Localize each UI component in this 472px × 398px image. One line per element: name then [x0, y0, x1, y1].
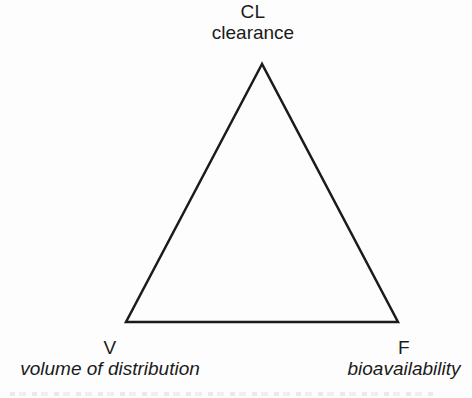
cropped-caption-remnant: [10, 392, 436, 396]
vertex-symbol-v: V: [20, 337, 200, 358]
triangle-outline: [126, 64, 398, 322]
vertex-symbol-cl: CL: [212, 1, 294, 22]
vertex-name-volume-of-distribution: volume of distribution: [20, 358, 200, 380]
vertex-name-clearance: clearance: [212, 22, 294, 44]
vertex-symbol-f: F: [347, 337, 460, 358]
vertex-name-bioavailability: bioavailability: [347, 358, 460, 380]
vertex-label-bioavailability: F bioavailability: [347, 337, 460, 380]
figure-page: CL clearance V volume of distribution F …: [0, 0, 472, 398]
vertex-label-clearance: CL clearance: [212, 1, 294, 44]
vertex-label-volume: V volume of distribution: [20, 337, 200, 380]
